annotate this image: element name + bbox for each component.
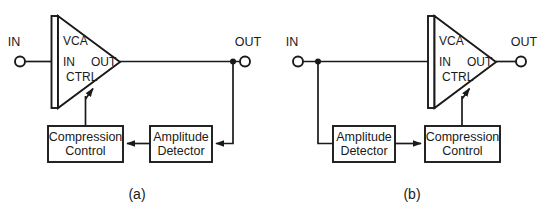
vca-pin-in-label-b: IN xyxy=(439,55,451,69)
vca-name-label-a: VCA xyxy=(63,34,88,48)
vca-name-label-b: VCA xyxy=(439,34,464,48)
input-terminal-b xyxy=(293,57,428,67)
amplitude-detector-label-line1-a: Amplitude xyxy=(153,130,209,144)
input-terminal-label-a: IN xyxy=(8,35,21,49)
vca-pin-out-label-b: OUT xyxy=(467,55,493,69)
output-terminal-label-b: OUT xyxy=(511,35,538,49)
control-arrow-into-vca-a xyxy=(86,89,94,100)
vca-input-bar-a xyxy=(52,16,59,108)
control-arrow-into-vca-b xyxy=(462,89,470,100)
panel-a: IN OUT VCA IN OUT CTRL Compression Contr… xyxy=(8,16,262,202)
amplitude-detector-label-line2-a: Detector xyxy=(157,144,204,158)
input-terminal-circle-a xyxy=(15,57,25,67)
vca-pin-out-label-a: OUT xyxy=(91,55,117,69)
output-terminal-circle-a xyxy=(240,57,250,67)
compression-control-label-line2-b: Control xyxy=(442,144,482,158)
output-path-b xyxy=(496,57,526,67)
vca-pin-ctrl-label-a: CTRL xyxy=(66,70,98,84)
figure-canvas: IN OUT VCA IN OUT CTRL Compression Contr… xyxy=(0,0,550,215)
output-path-a xyxy=(120,57,250,67)
amplitude-detector-label-line2-b: Detector xyxy=(340,144,387,158)
panel-caption-a: (a) xyxy=(128,186,145,202)
panel-caption-b: (b) xyxy=(403,186,420,202)
feedforward-wire-to-detector-b xyxy=(318,62,333,144)
input-terminal-label-b: IN xyxy=(286,35,299,49)
panel-b: IN OUT VCA IN OUT CTRL Amplitude Detecto… xyxy=(286,16,538,202)
compression-control-label-line2-a: Control xyxy=(65,144,105,158)
vca-pin-in-label-a: IN xyxy=(63,55,75,69)
diagram-svg: IN OUT VCA IN OUT CTRL Compression Contr… xyxy=(0,0,550,215)
output-terminal-label-a: OUT xyxy=(235,35,262,49)
feedback-wire-to-detector-a xyxy=(216,62,233,144)
compression-control-label-line1-a: Compression xyxy=(49,130,123,144)
compression-control-label-line1-b: Compression xyxy=(426,130,500,144)
input-terminal-circle-b xyxy=(293,57,303,67)
vca-pin-ctrl-label-b: CTRL xyxy=(442,70,474,84)
vca-input-bar-b xyxy=(428,16,435,108)
input-terminal-a xyxy=(15,57,52,67)
output-terminal-circle-b xyxy=(516,57,526,67)
amplitude-detector-label-line1-b: Amplitude xyxy=(336,130,392,144)
